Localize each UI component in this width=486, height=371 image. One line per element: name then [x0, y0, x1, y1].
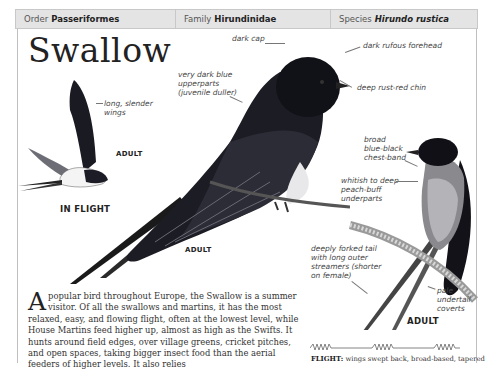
taxonomy-header: Order Passeriformes Family Hirundinidae …: [15, 9, 478, 29]
annotation-line: with long outer: [311, 253, 381, 262]
annotation-line: upperparts: [178, 79, 237, 88]
species-value: Hirundo rustica: [375, 14, 449, 24]
species-description: A popular bird throughout Europe, the Sw…: [28, 291, 306, 371]
flight-pattern-icon: [310, 342, 470, 352]
leader-line: [96, 103, 103, 104]
annotation-line: undertail: [437, 295, 471, 304]
label-in-flight: IN FLIGHT: [60, 204, 110, 214]
annotation-line: streamers (shorter: [311, 262, 381, 271]
species-cell: Species Hirundo rustica: [331, 10, 477, 28]
annotation-underparts: whitish to deep peach-buff underparts: [341, 176, 399, 203]
leader-line: [396, 181, 418, 182]
annotation-line: broad: [364, 135, 406, 144]
annotation-line: deeply forked tail: [311, 244, 381, 253]
annotation-line: peach-buff: [341, 185, 399, 194]
flight-text: wings swept back, broad-based, tapered: [343, 355, 485, 363]
label-perched-adult: ADULT: [407, 316, 439, 326]
annotation-chest-band: broad blue-black chest-band: [364, 135, 406, 162]
annotation-upperparts: very dark blue upperparts (juvenile dull…: [178, 70, 237, 97]
annotation-line: very dark blue: [178, 70, 237, 79]
label-flight-adult: ADULT: [116, 150, 143, 158]
annotation-line: chest-band: [364, 153, 406, 162]
order-cell: Order Passeriformes: [16, 10, 176, 28]
species-label: Species: [339, 14, 372, 24]
annotation-line: blue-black: [364, 144, 406, 153]
family-value: Hirundinidae: [214, 14, 276, 24]
annotation-line: wings: [104, 108, 153, 117]
annotation-undertail-coverts: pale undertail coverts: [437, 286, 471, 313]
drop-cap: A: [28, 292, 46, 312]
flight-label: FLIGHT:: [311, 355, 343, 363]
annotation-line: whitish to deep: [341, 176, 399, 185]
annotation-line: on female): [311, 271, 381, 280]
annotation-dark-cap: dark cap: [232, 34, 265, 43]
label-main-adult: ADULT: [185, 246, 212, 254]
annotation-line: coverts: [437, 304, 471, 313]
leader-line: [265, 43, 285, 44]
family-cell: Family Hirundinidae: [176, 10, 331, 28]
annotation-line: pale: [437, 286, 471, 295]
description-text: popular bird throughout Europe, the Swal…: [28, 291, 299, 369]
family-label: Family: [184, 14, 211, 24]
annotation-wings: long, slender wings: [104, 99, 153, 117]
annotation-deep-rust-red-chin: deep rust-red chin: [357, 83, 426, 92]
order-value: Passeriformes: [51, 14, 119, 24]
annotation-line: underparts: [341, 194, 399, 203]
flight-description: FLIGHT: wings swept back, broad-based, t…: [311, 355, 485, 363]
annotation-forked-tail: deeply forked tail with long outer strea…: [311, 244, 381, 280]
annotation-line: long, slender: [104, 99, 153, 108]
order-label: Order: [24, 14, 48, 24]
annotation-line: (juvenile duller): [178, 88, 237, 97]
annotation-dark-rufous-forehead: dark rufous forehead: [363, 41, 442, 50]
